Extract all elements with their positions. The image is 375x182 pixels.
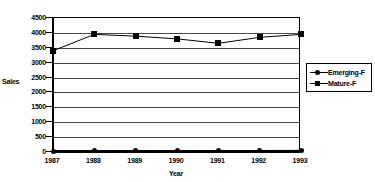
- y-axis-tick: [46, 121, 53, 122]
- y-axis-tick-label: 3000: [2, 58, 46, 65]
- y-axis-tick-labels: 050010001500200025003000350040004500: [0, 0, 46, 182]
- x-axis-tick-label: 1989: [115, 157, 155, 165]
- y-axis-tick: [46, 47, 53, 48]
- plot-area: [52, 17, 300, 151]
- y-axis-title: Sales: [2, 78, 19, 85]
- y-axis-tick: [46, 106, 53, 107]
- x-axis-tick-label: 1988: [73, 157, 113, 165]
- y-axis-tick-label: 4000: [2, 28, 46, 35]
- x-axis-tick-label: 1990: [156, 157, 196, 165]
- data-point-marker: [91, 31, 97, 37]
- legend-marker-icon: [310, 68, 328, 77]
- legend-label: Mature-F: [328, 79, 356, 88]
- y-axis-tick: [46, 151, 53, 152]
- x-axis-tick-label: 1993: [280, 157, 320, 165]
- y-axis-tick: [46, 17, 53, 18]
- series-layer: [53, 18, 299, 150]
- data-point-marker: [257, 34, 263, 40]
- y-axis-tick: [46, 91, 53, 92]
- y-axis-tick: [46, 62, 53, 63]
- data-point-marker: [174, 36, 180, 42]
- data-point-marker: [215, 40, 221, 46]
- x-axis-tick-label: 1992: [239, 157, 279, 165]
- data-point-marker: [298, 31, 304, 37]
- y-axis-tick: [46, 136, 53, 137]
- y-axis-tick-label: 4500: [2, 14, 46, 21]
- legend-entry: Emerging-F: [310, 67, 369, 78]
- x-axis-title: Year: [0, 170, 352, 177]
- chart-legend: Emerging-FMature-F: [306, 63, 372, 92]
- y-axis-tick: [46, 32, 53, 33]
- y-axis-tick-label: 1500: [2, 103, 46, 110]
- data-point-marker: [133, 33, 139, 39]
- y-axis-tick-label: 0: [2, 148, 46, 155]
- y-axis-tick-label: 2000: [2, 88, 46, 95]
- legend-entry: Mature-F: [310, 78, 369, 89]
- chart-container: 050010001500200025003000350040004500 Sal…: [0, 0, 375, 182]
- x-axis-tick-label: 1991: [197, 157, 237, 165]
- x-axis-tick-label: 1987: [32, 157, 72, 165]
- y-axis-line: [52, 17, 54, 151]
- x-axis-line: [52, 151, 300, 153]
- y-axis-tick-label: 500: [2, 133, 46, 140]
- legend-label: Emerging-F: [328, 68, 365, 77]
- y-axis-tick: [46, 77, 53, 78]
- y-axis-tick-label: 3500: [2, 43, 46, 50]
- y-axis-tick-label: 1000: [2, 118, 46, 125]
- legend-marker-icon: [310, 79, 328, 88]
